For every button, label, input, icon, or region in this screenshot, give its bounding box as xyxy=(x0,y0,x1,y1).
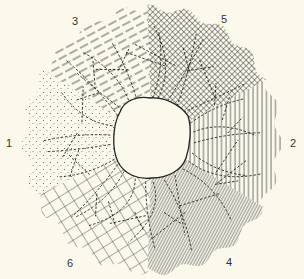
sector-label-6: 6 xyxy=(67,258,73,269)
sector-diagram xyxy=(0,0,304,279)
center-hole xyxy=(114,98,190,179)
sector-label-4: 4 xyxy=(226,257,232,268)
sector-label-3: 3 xyxy=(72,16,78,27)
sector-label-1: 1 xyxy=(6,138,12,149)
sector-label-5: 5 xyxy=(221,14,227,25)
sector-label-2: 2 xyxy=(290,138,296,149)
